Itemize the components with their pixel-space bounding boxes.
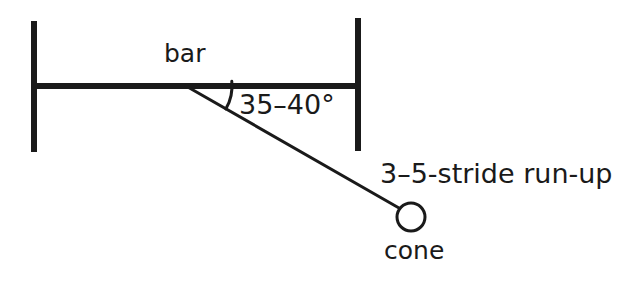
cone-label: cone	[384, 238, 444, 263]
diagram-canvas: bar 35–40° 3–5-stride run-up cone	[0, 0, 627, 285]
cone-marker-icon	[397, 203, 425, 231]
diagram-svg	[0, 0, 627, 285]
bar-label: bar	[164, 41, 205, 66]
run-up-label: 3–5-stride run-up	[380, 160, 613, 187]
approach-angle-label: 35–40°	[239, 91, 335, 118]
